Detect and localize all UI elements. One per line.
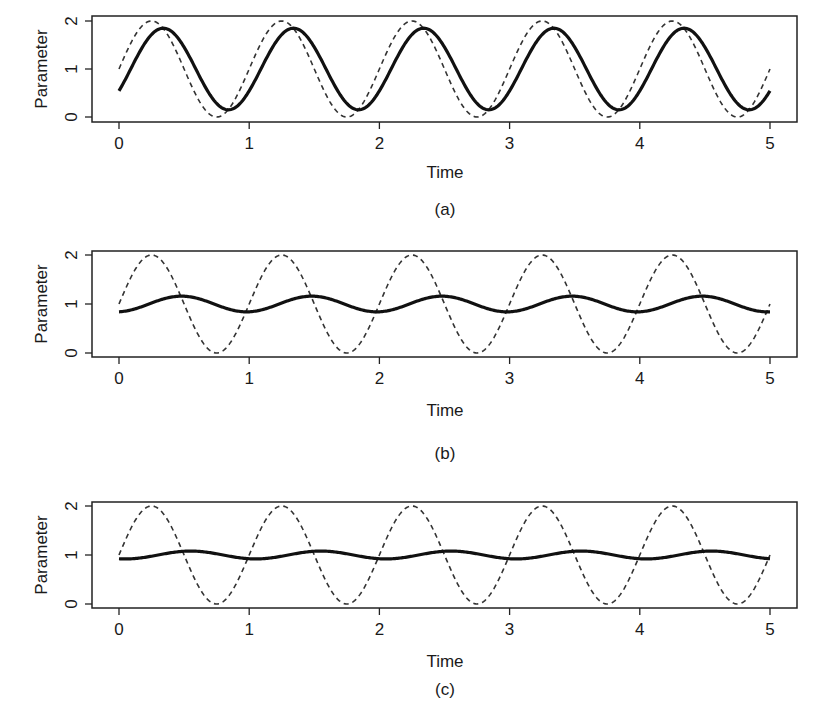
- y-axis-title: Parameter: [32, 515, 51, 595]
- panel-caption: (c): [435, 680, 455, 699]
- x-axis-title: Time: [426, 401, 463, 420]
- y-axis-title: Parameter: [32, 29, 51, 109]
- solid-series: [119, 28, 770, 110]
- x-tick-label: 3: [505, 620, 514, 639]
- x-axis-title: Time: [426, 163, 463, 182]
- x-axis: 012345: [114, 357, 774, 388]
- y-tick-label: 2: [62, 501, 81, 510]
- y-tick-label: 1: [62, 299, 81, 308]
- solid-series: [119, 551, 770, 559]
- x-tick-label: 3: [505, 134, 514, 153]
- x-tick-label: 0: [114, 134, 123, 153]
- x-tick-label: 5: [765, 620, 774, 639]
- panel-caption: (a): [435, 200, 456, 219]
- y-axis-title: Parameter: [32, 264, 51, 344]
- panel-c: 012 012345 Parameter Time (c): [32, 501, 797, 699]
- x-axis: 012345: [114, 608, 774, 639]
- x-tick-label: 4: [635, 620, 644, 639]
- y-axis: 012: [62, 16, 92, 121]
- y-tick-label: 1: [62, 64, 81, 73]
- figure: 012 012345 Parameter Time (a) 012 012345…: [0, 0, 826, 725]
- x-tick-label: 0: [114, 369, 123, 388]
- y-axis: 012: [62, 501, 92, 608]
- x-tick-label: 3: [505, 369, 514, 388]
- y-axis: 012: [62, 250, 92, 357]
- x-tick-label: 1: [244, 134, 253, 153]
- y-tick-label: 0: [62, 112, 81, 121]
- plot-frame: [92, 502, 797, 608]
- x-tick-label: 4: [635, 369, 644, 388]
- x-axis-title: Time: [426, 652, 463, 671]
- y-tick-label: 0: [62, 599, 81, 608]
- panel-caption: (b): [435, 444, 456, 463]
- x-tick-label: 1: [244, 369, 253, 388]
- y-tick-label: 0: [62, 348, 81, 357]
- x-tick-label: 5: [765, 134, 774, 153]
- x-tick-label: 1: [244, 620, 253, 639]
- solid-series: [119, 296, 770, 312]
- x-tick-label: 2: [375, 134, 384, 153]
- x-tick-label: 5: [765, 369, 774, 388]
- x-axis: 012345: [114, 122, 774, 153]
- x-tick-label: 2: [375, 620, 384, 639]
- x-tick-label: 0: [114, 620, 123, 639]
- y-tick-label: 2: [62, 16, 81, 25]
- y-tick-label: 1: [62, 550, 81, 559]
- panel-b: 012 012345 Parameter Time (b): [32, 250, 797, 463]
- y-tick-label: 2: [62, 250, 81, 259]
- x-tick-label: 2: [375, 369, 384, 388]
- x-tick-label: 4: [635, 134, 644, 153]
- plot-frame: [92, 251, 797, 357]
- panel-a: 012 012345 Parameter Time (a): [32, 16, 797, 219]
